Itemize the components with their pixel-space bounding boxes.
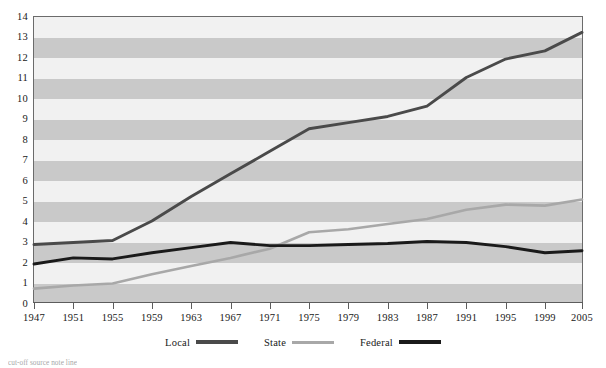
x-axis-tick-label: 1983 bbox=[377, 312, 399, 323]
x-axis-tick-label: 1979 bbox=[337, 312, 359, 323]
x-axis-tick bbox=[73, 303, 74, 309]
x-axis-tick-label: 1995 bbox=[495, 312, 517, 323]
x-axis-tick-label: 1971 bbox=[259, 312, 281, 323]
legend-swatch-federal bbox=[399, 340, 441, 344]
caption-cut-off: cut-off source note line bbox=[8, 359, 600, 368]
x-axis-tick bbox=[152, 303, 153, 309]
chart-legend: LocalStateFederal bbox=[0, 334, 606, 350]
legend-item-local[interactable]: Local bbox=[165, 337, 238, 348]
caption-text: cut-off source note line bbox=[8, 359, 600, 367]
legend-item-state[interactable]: State bbox=[264, 337, 334, 348]
x-axis-tick bbox=[348, 303, 349, 309]
x-axis-tick-label: 1967 bbox=[220, 312, 242, 323]
legend-swatch-state bbox=[292, 341, 334, 344]
legend-swatch-local bbox=[196, 340, 238, 344]
x-axis-tick bbox=[427, 303, 428, 309]
x-axis-tick-label: 1963 bbox=[180, 312, 202, 323]
x-axis-tick bbox=[191, 303, 192, 309]
x-axis-tick bbox=[309, 303, 310, 309]
x-axis-tick bbox=[545, 303, 546, 309]
x-axis-tick-label: 1947 bbox=[23, 312, 45, 323]
x-axis-tick bbox=[231, 303, 232, 309]
x-axis-tick bbox=[506, 303, 507, 309]
x-axis-tick bbox=[388, 303, 389, 309]
legend-label: State bbox=[264, 337, 286, 348]
legend-label: Local bbox=[165, 337, 190, 348]
legend-item-federal[interactable]: Federal bbox=[360, 337, 441, 348]
x-axis-tick-label: 1955 bbox=[102, 312, 124, 323]
x-axis-tick bbox=[113, 303, 114, 309]
x-axis-tick-label: 1975 bbox=[298, 312, 320, 323]
x-axis-tick bbox=[582, 303, 583, 309]
legend-label: Federal bbox=[360, 337, 393, 348]
chart-container: 14131211109876543210 1947195119551959196… bbox=[0, 0, 606, 368]
x-axis: 1947195119551959196319671971197519791983… bbox=[0, 0, 606, 368]
x-axis-tick-label: 1951 bbox=[62, 312, 84, 323]
x-axis-tick-label: 1991 bbox=[455, 312, 477, 323]
x-axis-tick-label: 1999 bbox=[534, 312, 556, 323]
x-axis-tick-label: 1987 bbox=[416, 312, 438, 323]
x-axis-tick bbox=[270, 303, 271, 309]
x-axis-tick-label: 2005 bbox=[571, 312, 593, 323]
x-axis-tick bbox=[466, 303, 467, 309]
x-axis-tick-label: 1959 bbox=[141, 312, 163, 323]
x-axis-tick bbox=[34, 303, 35, 309]
